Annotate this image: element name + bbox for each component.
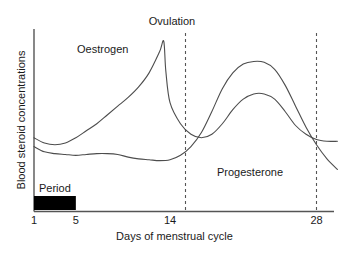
period-label: Period [39, 183, 71, 194]
x-axis-title: Days of menstrual cycle [0, 231, 349, 242]
x-tick-label-5: 5 [64, 215, 88, 226]
x-tick-label-1: 1 [22, 215, 46, 226]
menstrual-cycle-chart: Blood steroid concentrations Days of men… [0, 0, 349, 256]
x-tick-label-14: 14 [158, 215, 182, 226]
period-bar [34, 196, 76, 210]
y-axis-title: Blood steroid concentrations [15, 25, 29, 215]
oestrogen-label: Oestrogen [77, 44, 128, 55]
ovulation-label: Ovulation [2, 16, 342, 27]
progesterone-label: Progesterone [217, 167, 283, 178]
x-tick-label-28: 28 [305, 215, 329, 226]
